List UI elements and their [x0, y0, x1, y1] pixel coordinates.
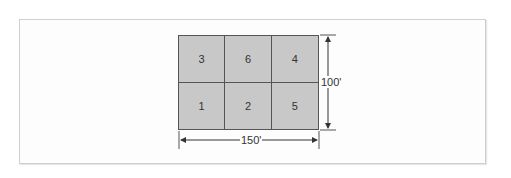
- height-dimension-label: 100': [321, 76, 341, 88]
- width-dimension-label: 150': [240, 134, 262, 146]
- dimension-lines: [0, 0, 511, 178]
